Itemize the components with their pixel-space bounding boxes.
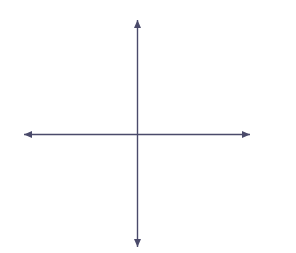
- graph-svg: [0, 0, 296, 253]
- x-axis-arrow-left-icon: [24, 131, 32, 138]
- axis-lines: [24, 20, 250, 247]
- coordinate-plane-figure: [0, 0, 296, 253]
- x-axis-arrow-right-icon: [242, 131, 250, 138]
- y-axis-arrow-up-icon: [134, 20, 141, 28]
- y-axis-arrow-down-icon: [134, 239, 141, 247]
